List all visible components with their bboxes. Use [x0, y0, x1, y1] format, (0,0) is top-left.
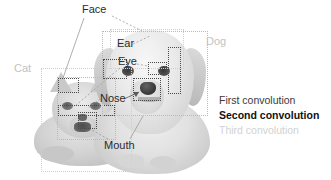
figure-canvas: Face Ear Eye Nose Mouth Cat Dog First co…	[0, 0, 331, 180]
legend-item-first-convolution: First convolution	[219, 93, 329, 108]
label-ear: Ear	[117, 38, 134, 49]
label-eye: Eye	[118, 56, 137, 67]
dog-paw-right	[150, 156, 176, 169]
label-cat-class: Cat	[14, 63, 31, 74]
label-nose: Nose	[100, 93, 126, 104]
label-face: Face	[82, 4, 106, 15]
legend: First convolution Second convolution Thi…	[219, 93, 329, 138]
legend-item-second-convolution: Second convolution	[219, 108, 329, 123]
box-cat-ear-region	[58, 78, 79, 93]
box-dog-eye-region	[148, 62, 167, 75]
box-dog-nose-region	[133, 78, 161, 101]
label-dog-class: Dog	[206, 36, 226, 47]
label-mouth: Mouth	[104, 140, 135, 151]
box-cat-mouth-region	[78, 112, 97, 129]
box-dog-side-region	[168, 47, 181, 94]
legend-item-third-convolution: Third convolution	[219, 123, 329, 138]
